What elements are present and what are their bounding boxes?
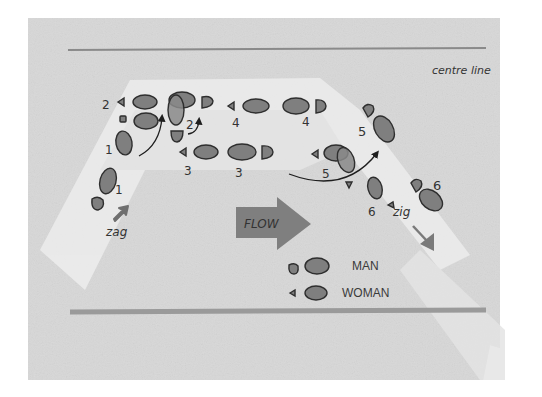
woman-heel-step2 <box>120 116 126 122</box>
step-number: 5 <box>358 124 366 139</box>
centre-line-label: centre line <box>432 64 491 77</box>
man-foot-step4-left <box>243 99 269 113</box>
man-heel-icon <box>289 264 298 274</box>
man-heel-step1-lower <box>92 197 104 210</box>
wall-line <box>70 310 486 312</box>
man-foot-icon <box>305 258 329 274</box>
step-number: 6 <box>368 205 376 219</box>
step-number: 3 <box>235 166 243 180</box>
dance-step-diagram: centre line 1 1 2 2 3 3 4 <box>0 0 542 397</box>
step-number: 5 <box>322 167 330 181</box>
flow-label: FLOW <box>244 217 280 231</box>
zag-label: zag <box>105 225 128 239</box>
legend-label-woman: WOMAN <box>342 286 389 300</box>
step-number: 4 <box>302 115 310 129</box>
step-number: 3 <box>184 164 192 178</box>
man-foot-step2-top <box>133 95 157 109</box>
woman-foot-icon <box>305 286 327 300</box>
man-foot-step3-left <box>194 145 218 159</box>
step-number: 2 <box>186 118 194 132</box>
step-number: 4 <box>232 116 240 130</box>
step-number: 2 <box>102 98 110 112</box>
step-number: 1 <box>105 143 113 157</box>
man-foot-step4-right <box>283 98 309 114</box>
legend-label-man: MAN <box>352 259 379 273</box>
step-number: 1 <box>115 183 123 197</box>
woman-foot-step2-overlap <box>168 95 184 125</box>
man-foot-step3-right <box>228 144 256 160</box>
man-foot-step2-lower <box>134 113 158 129</box>
woman-heel-step2-lower <box>171 131 183 142</box>
step-number: 6 <box>433 178 441 193</box>
zig-label: zig <box>392 205 411 219</box>
